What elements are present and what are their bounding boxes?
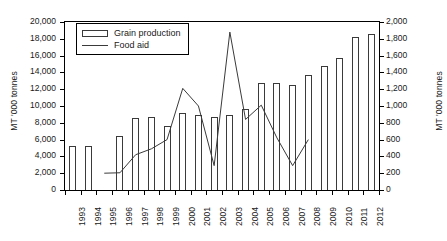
y-tick-left-4000: 4,000	[14, 151, 56, 160]
y-tick-left-0: 0	[14, 185, 56, 194]
x-tick-label-2009: 2009	[328, 207, 338, 226]
y-tick-right-600: 600	[386, 135, 428, 144]
legend-item-food-aid: Food aid	[82, 39, 183, 51]
y-tick-left-10000: 10,000	[14, 101, 56, 110]
tick-mark-right	[380, 89, 384, 90]
x-tick-mark	[175, 191, 176, 195]
y-tick-right-1400: 1,400	[386, 67, 428, 76]
tick-mark-right	[380, 72, 384, 73]
tick-mark-right	[380, 140, 384, 141]
x-tick-mark	[316, 191, 317, 195]
y-tick-right-800: 800	[386, 118, 428, 127]
y-tick-left-18000: 18,000	[14, 34, 56, 43]
x-tick-mark	[206, 191, 207, 195]
y-tick-right-400: 400	[386, 151, 428, 160]
x-tick-label-1994: 1994	[93, 207, 103, 226]
x-tick-mark	[253, 191, 254, 195]
y-tick-left-8000: 8,000	[14, 118, 56, 127]
tick-mark-right	[380, 22, 384, 23]
tick-mark-right	[380, 123, 384, 124]
x-tick-mark	[128, 191, 129, 195]
x-tick-mark	[363, 191, 364, 195]
x-tick-label-2008: 2008	[312, 207, 322, 226]
x-tick-mark	[144, 191, 145, 195]
chart-figure: MT '000 tonnes MT '000 tonnes 02,0004,00…	[0, 0, 447, 241]
y-tick-left-16000: 16,000	[14, 51, 56, 60]
legend-label-grain-production: Grain production	[114, 28, 181, 38]
y-tick-left-14000: 14,000	[14, 67, 56, 76]
x-tick-label-1995: 1995	[108, 207, 118, 226]
legend-label-food-aid: Food aid	[114, 40, 149, 50]
y-tick-right-200: 200	[386, 168, 428, 177]
x-tick-label-1993: 1993	[77, 207, 87, 226]
y-tick-left-6000: 6,000	[14, 135, 56, 144]
chart-legend: Grain production Food aid	[76, 23, 189, 55]
y-tick-right-1600: 1,600	[386, 51, 428, 60]
x-tick-mark	[332, 191, 333, 195]
x-tick-mark	[159, 191, 160, 195]
x-tick-mark	[379, 191, 380, 195]
x-tick-label-2004: 2004	[250, 207, 260, 226]
x-tick-label-2007: 2007	[297, 207, 307, 226]
x-tick-label-1998: 1998	[155, 207, 165, 226]
tick-mark-right	[380, 173, 384, 174]
x-tick-mark	[81, 191, 82, 195]
x-tick-mark	[269, 191, 270, 195]
x-tick-label-2012: 2012	[375, 207, 385, 226]
y-tick-left-20000: 20,000	[14, 17, 56, 26]
y-tick-right-0: 0	[386, 185, 428, 194]
x-tick-mark	[301, 191, 302, 195]
x-tick-label-2011: 2011	[359, 208, 369, 226]
x-tick-mark	[238, 191, 239, 195]
x-tick-label-2003: 2003	[234, 207, 244, 226]
y-tick-right-1000: 1,000	[386, 101, 428, 110]
x-tick-mark	[285, 191, 286, 195]
legend-bar-swatch-icon	[82, 30, 108, 37]
legend-item-grain-production: Grain production	[82, 27, 183, 39]
y-tick-left-2000: 2,000	[14, 168, 56, 177]
tick-mark-right	[380, 39, 384, 40]
x-tick-mark	[348, 191, 349, 195]
x-tick-label-2005: 2005	[265, 207, 275, 226]
x-tick-mark	[96, 191, 97, 195]
y-tick-right-1200: 1,200	[386, 84, 428, 93]
x-tick-label-2002: 2002	[218, 207, 228, 226]
x-tick-mark	[112, 191, 113, 195]
x-tick-label-2000: 2000	[187, 207, 197, 226]
x-tick-label-2010: 2010	[344, 207, 354, 226]
x-tick-label-1997: 1997	[140, 207, 150, 226]
x-tick-label-2006: 2006	[281, 207, 291, 226]
y-tick-left-12000: 12,000	[14, 84, 56, 93]
tick-mark-right	[380, 156, 384, 157]
x-tick-mark	[222, 191, 223, 195]
x-tick-label-1996: 1996	[124, 207, 134, 226]
legend-line-swatch-icon	[82, 45, 108, 46]
y-axis-label-right: MT '000 tonnes	[434, 61, 444, 141]
x-tick-label-2001: 2001	[202, 207, 212, 226]
x-tick-mark	[65, 191, 66, 195]
tick-mark-right	[380, 106, 384, 107]
y-tick-right-1800: 1,800	[386, 34, 428, 43]
tick-mark-right	[380, 56, 384, 57]
y-tick-right-2000: 2,000	[386, 17, 428, 26]
tick-mark-right	[380, 190, 384, 191]
x-tick-mark	[191, 191, 192, 195]
x-tick-label-1999: 1999	[171, 207, 181, 226]
